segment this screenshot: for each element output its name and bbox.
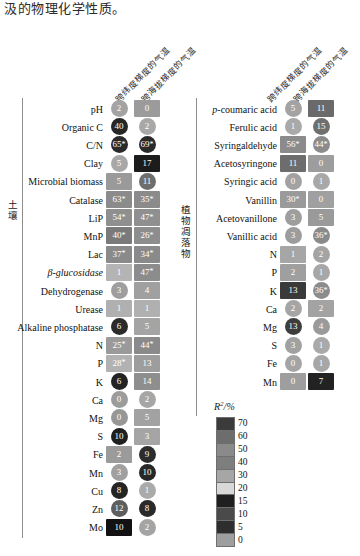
colorbar-segment [217,495,234,508]
row-label: Fe [267,355,277,373]
heatmap-cell: 1 [313,264,330,281]
heatmap-row: Acetovanillone35 [0,209,360,227]
heatmap-cell: 0 [308,191,334,208]
heatmap-row: Mg134 [0,318,360,336]
row-label: Fe [93,446,103,464]
heatmap-row: Acetosyringone110 [0,155,360,173]
heatmap-row: Mn07 [0,373,360,391]
colorbar-tick: 5 [238,522,243,532]
heatmap-cell: 0 [285,355,302,372]
heatmap-cell: 10 [111,428,128,445]
heatmap-row: Mo102 [0,519,360,537]
heatmap-row: p-coumaric acid511 [0,100,360,118]
significance-star: * [324,232,328,240]
heatmap-cell: 0 [285,173,302,190]
heatmap-cell: 3 [111,464,128,481]
heatmap-cell: 1 [313,355,330,372]
colorbar-segment [217,534,234,546]
row-cells: 22 [280,300,334,318]
heatmap-cell: 0 [111,391,128,408]
colorbar-tick: 40 [238,457,248,467]
row-label: Mg [263,318,277,336]
row-cells: 511 [280,100,334,118]
heatmap-cell: 3 [134,428,160,445]
row-label: Mg [89,409,103,427]
significance-star: * [324,287,328,295]
colorbar-segment [217,418,234,431]
row-cells: 115 [280,118,334,136]
colorbar-title: R2/% [214,400,235,412]
row-cells: 31 [280,337,334,355]
colorbar-gradient [216,417,235,547]
row-label: Ca [92,391,103,409]
heatmap-cell: 11 [280,155,306,172]
heatmap-cell: 36* [313,227,330,244]
heatmap-row: Cu81 [0,482,360,500]
row-cells: 1336* [280,282,334,300]
row-label: K [270,282,277,300]
heatmap-cell: 8 [139,500,156,517]
row-label: Cu [91,482,103,500]
heatmap-cell: 13 [285,318,302,335]
row-cells: 134 [280,318,334,336]
heatmap-cell: 0 [280,373,306,390]
row-label: S [97,428,103,446]
row-label: P [271,264,277,282]
heatmap-cell: 4 [313,318,330,335]
heatmap-cell: 10 [139,464,156,481]
significance-star: * [324,141,328,149]
heatmap-cell: 3 [285,227,302,244]
row-label: Acetosyringone [214,155,277,173]
heatmap-row: S31 [0,337,360,355]
heatmap-cell: 36* [313,282,330,299]
heatmap-cell: 3 [285,337,302,354]
row-label: Syringaldehyde [214,136,277,154]
heatmap-row: K1336* [0,282,360,300]
colorbar-title-unit: /% [224,401,235,412]
heatmap-row: S103 [0,428,360,446]
heatmap-row: Syringic acid01 [0,173,360,191]
heatmap-row: Fe01 [0,355,360,373]
row-cells: 07 [280,373,334,391]
row-cells: 110 [280,155,334,173]
heatmap-cell: 5 [308,209,334,226]
colorbar-segment [217,470,234,483]
heatmap-cell: 2 [139,519,156,536]
heatmap-cell: 5 [285,100,302,117]
heatmap-cell: 30* [280,191,306,208]
row-cells: 01 [280,355,334,373]
row-label: Ferulic acid [230,118,277,136]
heatmap-cell: 2 [139,391,156,408]
heatmap-row: Ferulic acid115 [0,118,360,136]
row-cells: 128 [106,500,160,518]
row-cells: 310 [106,464,160,482]
heatmap-cell: 5 [134,409,160,426]
heatmap-cell: 2 [313,246,330,263]
heatmap-cell: 8 [111,482,128,499]
colorbar-segment [217,483,234,496]
row-label: S [271,337,277,355]
row-cells: 02 [106,391,160,409]
significance-star: * [296,196,300,204]
row-cells: 29 [106,446,160,464]
colorbar-tick: 15 [238,496,248,506]
heatmap-cell: 2 [308,300,334,317]
heatmap-cell: 1 [280,246,306,263]
heatmap-cell: 7 [308,373,334,390]
heatmap-cell: 15 [313,118,330,135]
figure-canvas: 汲的物理化学性质。 跨纬度梯度的气温 跨海拔梯度的气温 跨纬度梯度的气温 跨海拔… [0,0,360,556]
heatmap-row: P21 [0,264,360,282]
heatmap-cell: 0 [111,409,128,426]
row-cells: 103 [106,428,160,446]
row-cells: 05 [106,409,160,427]
heatmap-row: Mg05 [0,409,360,427]
row-cells: 336* [280,227,334,245]
heatmap-cell: 13 [280,282,306,299]
colorbar-tick: 20 [238,483,248,493]
heatmap-cell: 11 [308,100,334,117]
colorbar-tick: 70 [238,418,248,428]
row-cells: 102 [106,519,160,537]
heatmap-cell: 9 [139,446,156,463]
heatmap-cell: 2 [285,300,302,317]
heatmap-row: Fe29 [0,446,360,464]
